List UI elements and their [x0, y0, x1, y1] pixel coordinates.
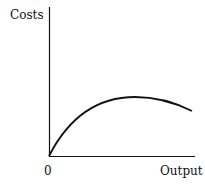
x-axis-label: Output: [160, 164, 203, 178]
chart-plot: [0, 0, 205, 187]
origin-label: 0: [44, 164, 52, 178]
y-axis-label: Costs: [10, 8, 44, 22]
costs-curve: [49, 97, 192, 156]
